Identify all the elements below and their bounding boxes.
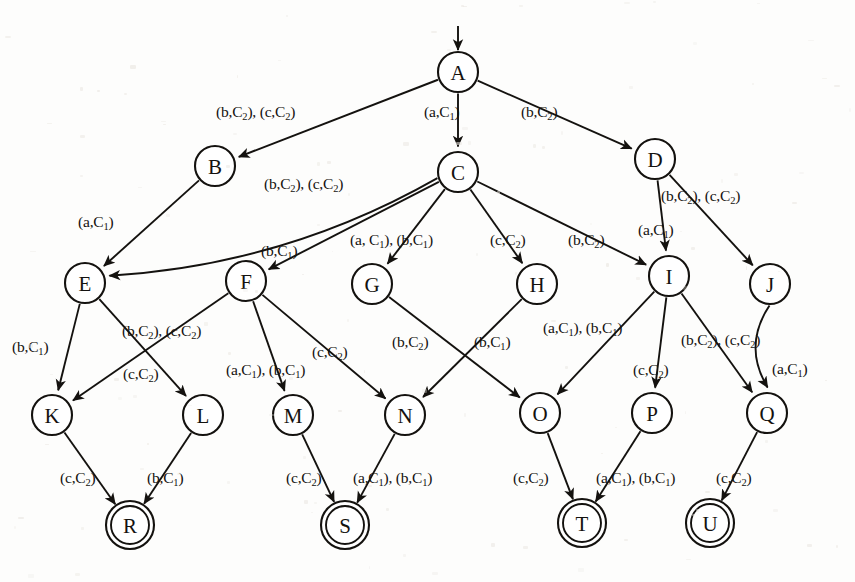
scan-speck (386, 508, 389, 511)
scan-speck (80, 175, 83, 177)
node-label-u: U (702, 512, 717, 536)
edge-c-to-i (477, 182, 646, 265)
scan-speck (551, 320, 556, 322)
edge-p-to-t (596, 431, 641, 501)
edge-label-m-s: (c,C2) (286, 470, 322, 486)
node-label-h: H (529, 273, 544, 297)
edge-f-to-k (73, 293, 228, 400)
edge-label-e-l: (c,C2) (123, 366, 159, 382)
node-k[interactable]: K (32, 395, 72, 435)
node-u-accepting[interactable]: U (686, 499, 734, 547)
scan-speck (696, 509, 699, 512)
scan-speck (432, 572, 438, 575)
scan-speck (118, 397, 121, 400)
edge-e-to-k (58, 304, 80, 390)
edge-label-f-n: (c,C2) (312, 344, 348, 360)
scan-speck (808, 40, 814, 41)
edge-label-p-t: (a,C1), (b,C1) (596, 470, 675, 486)
scan-speck (765, 440, 768, 443)
scan-speck (491, 543, 495, 546)
node-c[interactable]: C (438, 152, 478, 192)
node-o[interactable]: O (520, 393, 560, 433)
scan-speck (721, 179, 723, 182)
edge-label-i-q: (b,C2), (c,C2) (681, 332, 760, 348)
scan-speck (403, 554, 407, 557)
edge-label-d-i: (a,C1) (638, 222, 674, 238)
edge-i-to-o (557, 292, 654, 395)
node-r-accepting[interactable]: R (106, 501, 154, 549)
node-s-accepting[interactable]: S (321, 501, 369, 549)
scan-speck (347, 319, 349, 323)
node-label-a: A (450, 61, 466, 85)
edge-label-q-u: (c,C2) (716, 470, 752, 486)
node-f[interactable]: F (226, 261, 266, 301)
node-a[interactable]: A (438, 52, 478, 92)
scan-speck (624, 539, 628, 540)
node-h[interactable]: H (517, 264, 557, 304)
node-label-m: M (284, 404, 303, 428)
scan-speck (757, 3, 761, 4)
scan-speck (228, 352, 231, 355)
edge-label-n-s: (a,C1), (b,C1) (353, 470, 432, 486)
edge-label-c-i: (b,C2) (568, 232, 604, 248)
edge-label-o-t: (c,C2) (513, 470, 549, 486)
node-label-t: T (576, 512, 589, 536)
scan-speck (686, 559, 691, 561)
scan-speck (233, 133, 237, 136)
scan-speck (303, 456, 306, 459)
scan-speck (317, 162, 320, 166)
node-q[interactable]: Q (747, 393, 787, 433)
scan-speck (629, 86, 633, 89)
automaton-diagram-canvas: ABCDEFGHIJKLMNOPQRSTU (b,C2), (c,C2)(a,C… (0, 0, 855, 582)
edge-q-to-u (722, 432, 757, 500)
scan-speck (314, 502, 317, 504)
scan-speck (633, 423, 634, 425)
node-label-r: R (123, 514, 137, 538)
edge-label-f-m: (a,C1), (b,C1) (226, 362, 305, 378)
scan-speck (81, 527, 84, 530)
scan-speck (243, 288, 248, 291)
scan-speck (705, 491, 710, 493)
node-l[interactable]: L (183, 395, 223, 435)
node-m[interactable]: M (273, 395, 313, 435)
scan-speck (204, 322, 209, 326)
scan-speck (468, 141, 471, 145)
scan-speck (332, 251, 333, 252)
scan-speck (624, 2, 629, 4)
scan-speck (327, 161, 331, 163)
node-n[interactable]: N (385, 395, 425, 435)
node-label-j: J (766, 273, 774, 297)
node-label-n: N (397, 404, 412, 428)
scan-speck (462, 127, 468, 129)
scan-speck (515, 272, 517, 275)
scan-speck (369, 386, 370, 390)
scan-speck (734, 173, 738, 176)
edge-label-h-n: (b,C1) (474, 334, 510, 350)
node-label-p: P (646, 402, 658, 426)
node-j[interactable]: J (750, 264, 790, 304)
node-g[interactable]: G (352, 264, 392, 304)
scan-speck (464, 413, 465, 417)
node-e[interactable]: E (65, 263, 105, 303)
edge-label-c-f: (b,C1) (261, 243, 297, 259)
scan-speck (50, 374, 53, 376)
scan-speck (403, 142, 408, 146)
scan-speck (447, 49, 451, 50)
scan-speck (691, 247, 694, 250)
scan-speck (278, 60, 281, 61)
node-t-accepting[interactable]: T (558, 499, 606, 547)
scan-speck (133, 395, 138, 397)
edge-label-a-c: (a,C1) (424, 104, 460, 120)
node-label-s: S (339, 514, 351, 538)
automaton-graph: ABCDEFGHIJKLMNOPQRSTU (0, 0, 855, 582)
node-label-k: K (44, 404, 59, 428)
edge-c-to-e (109, 178, 437, 276)
node-p[interactable]: P (632, 393, 672, 433)
scan-speck (311, 512, 313, 513)
scan-speck (28, 574, 34, 578)
node-d[interactable]: D (635, 139, 675, 179)
scan-speck (166, 214, 170, 217)
edge-label-f-k: (b,C2), (c,C2) (122, 323, 201, 339)
scan-speck (533, 144, 536, 148)
scan-speck (523, 546, 528, 549)
